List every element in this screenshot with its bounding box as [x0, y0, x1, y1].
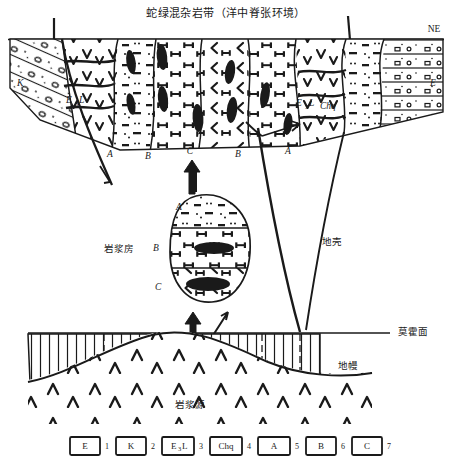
legend-number-4: 4: [247, 442, 251, 451]
layer-label-moho: 莫霍面: [398, 326, 428, 337]
legend-label-1: E: [82, 441, 88, 451]
magma-source-label: 岩浆源: [175, 399, 205, 410]
formation-right-main: E: [295, 98, 302, 108]
zone-label-b-left: B: [145, 151, 151, 161]
figure-canvas: 蛇绿混杂岩带（洋中脊张环境） NE: [0, 0, 453, 469]
legend-label-4: Chq: [218, 441, 234, 451]
fault-right-secondary: [306, 132, 344, 330]
legend-label-3-tail: L: [182, 441, 188, 451]
chamber-zone-label-a: A: [175, 202, 182, 212]
magma-chamber-label: 岩浆房: [104, 243, 134, 254]
formation-right-sub: 3: [305, 103, 308, 110]
unit-A-right: [344, 39, 384, 132]
magma-ascent-arrow-upper: [184, 160, 200, 194]
legend-item-4[interactable]: Chq 4: [210, 437, 251, 455]
layer-label-mantle: 地幔: [338, 360, 358, 371]
legend-label-7: C: [364, 441, 370, 451]
unit-label-E: E: [429, 78, 436, 88]
legend-item-7[interactable]: C 7: [352, 437, 391, 455]
legend-label-6: B: [318, 441, 324, 451]
legend-label-3-sub: 3: [178, 445, 181, 452]
unit-label-K: K: [16, 78, 24, 88]
legend-item-1[interactable]: E 1: [70, 437, 109, 455]
section-tick-right: [348, 16, 350, 40]
legend-number-3: 3: [199, 442, 203, 451]
unit-pillow-lava-right: [296, 39, 346, 148]
legend-number-1: 1: [105, 442, 109, 451]
legend-number-7: 7: [387, 442, 391, 451]
direction-label-ne: NE: [428, 24, 441, 34]
legend-number-6: 6: [341, 442, 345, 451]
legend-item-6[interactable]: B 6: [306, 437, 345, 455]
legend-label-5: A: [271, 441, 278, 451]
legend-item-2[interactable]: K 2: [116, 437, 155, 455]
chamber-zone-label-b: B: [153, 243, 159, 253]
figure-title: 蛇绿混杂岩带（洋中脊张环境）: [146, 6, 306, 19]
legend: E 1 K 2 E 3 L 3 Chq 4 A 5: [70, 437, 391, 455]
formation-chq: Chq: [320, 101, 336, 111]
zone-label-a-right: A: [284, 146, 291, 156]
layer-label-crust: 地壳: [322, 236, 342, 247]
legend-number-2: 2: [151, 442, 155, 451]
zone-label-a-left: A: [106, 149, 113, 159]
legend-item-5[interactable]: A 5: [258, 437, 299, 455]
zone-label-b-right: B: [235, 149, 241, 159]
formation-left-tail: L: [78, 95, 84, 105]
legend-item-3[interactable]: E 3 L 3: [162, 437, 203, 455]
unit-C-centre: [198, 39, 250, 152]
cross-section-svg: 蛇绿混杂岩带（洋中脊张环境） NE: [0, 0, 453, 469]
magma-chamber: [160, 186, 260, 312]
formation-right-tail: L: [308, 98, 314, 108]
legend-label-3-main: E: [171, 441, 177, 451]
ophiolite-belt-body: [8, 39, 444, 154]
chamber-lens-b: [194, 242, 234, 254]
formation-left-main: E: [65, 95, 72, 105]
zone-label-c: C: [187, 146, 194, 156]
fault-right-master: [258, 128, 300, 332]
legend-label-2: K: [128, 441, 135, 451]
formation-left-sub: 3: [75, 100, 78, 107]
unit-B-right: [248, 39, 300, 152]
legend-number-5: 5: [295, 442, 299, 451]
chamber-lens-c: [186, 277, 230, 291]
chamber-zone-label-c: C: [155, 282, 162, 292]
